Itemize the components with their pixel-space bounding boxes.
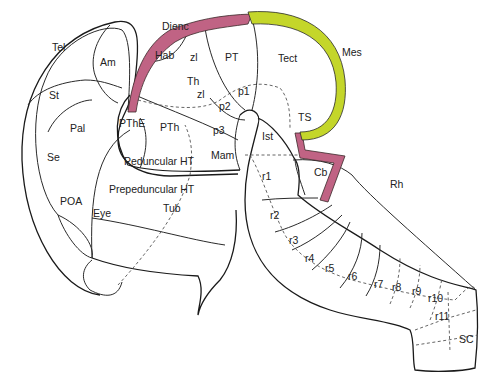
- label-rh: Rh: [390, 179, 403, 190]
- hindbrain-outline: [240, 110, 477, 371]
- label-r3: r3: [289, 235, 298, 246]
- label-r7: r7: [374, 279, 383, 290]
- label-p3: p3: [213, 125, 225, 136]
- label-ts: TS: [298, 112, 311, 123]
- label-hab: Hab: [155, 50, 174, 61]
- label-eye: Eye: [93, 208, 111, 219]
- label-mes: Mes: [342, 47, 362, 58]
- label-tel: Tel: [52, 42, 65, 53]
- st-boundary: [28, 80, 122, 105]
- label-pal: Pal: [70, 123, 85, 134]
- label-peduncular-ht: Peduncular HT: [124, 156, 194, 167]
- brain-diagram: Tel Am St Pal Se POA Eye Dienc Hab zl Th…: [0, 0, 490, 378]
- pt-tect-boundary: [252, 22, 258, 110]
- label-poa: POA: [60, 196, 82, 207]
- label-p2: p2: [219, 101, 231, 112]
- label-am: Am: [100, 57, 116, 68]
- pt-boundary: [205, 28, 245, 110]
- label-pth: PTh: [160, 122, 179, 133]
- sc-dashed-vertical: [448, 292, 450, 352]
- label-zl-upper: zl: [190, 52, 198, 63]
- label-r9: r9: [412, 286, 421, 297]
- label-r2: r2: [270, 210, 279, 221]
- label-cb: Cb: [314, 167, 327, 178]
- label-sc: SC: [459, 334, 474, 345]
- label-mam: Mam: [211, 150, 234, 161]
- label-r5: r5: [325, 263, 334, 274]
- label-p1: p1: [238, 86, 250, 97]
- label-tect: Tect: [278, 53, 297, 64]
- label-r11: r11: [435, 311, 449, 322]
- label-pt: PT: [225, 52, 238, 63]
- label-st: St: [49, 90, 59, 101]
- r2-r3-boundary: [275, 205, 332, 232]
- alar-basal-hindbrain-dashed: [250, 155, 476, 300]
- label-r1: r1: [262, 171, 271, 182]
- label-zl-lower: zl: [197, 89, 205, 100]
- peduncular-ht-boundary: [92, 218, 225, 245]
- label-ist: Ist: [262, 131, 273, 142]
- se-boundary: [58, 215, 92, 258]
- isthmus-left-edge: [235, 115, 240, 170]
- label-pthe: PThE: [119, 118, 145, 129]
- label-tub: Tub: [163, 203, 181, 214]
- diencephalic-band: [128, 14, 252, 112]
- label-se: Se: [47, 152, 60, 163]
- label-r6: r6: [348, 271, 357, 282]
- cb-left-edge: [295, 160, 305, 195]
- r1-r2-boundary: [262, 198, 318, 200]
- label-r10: r10: [428, 293, 443, 304]
- label-r4: r4: [305, 253, 314, 264]
- label-r8: r8: [392, 282, 401, 293]
- label-prepeduncular-ht: Prepeduncular HT: [109, 184, 194, 195]
- label-dienc: Dienc: [162, 21, 189, 32]
- hypothalamus-bottom-outline: [92, 210, 236, 315]
- label-th: Th: [187, 76, 199, 87]
- r3-r4-boundary: [292, 215, 342, 250]
- diagram-outline: [0, 0, 490, 378]
- rh-upper-outline: [293, 160, 476, 290]
